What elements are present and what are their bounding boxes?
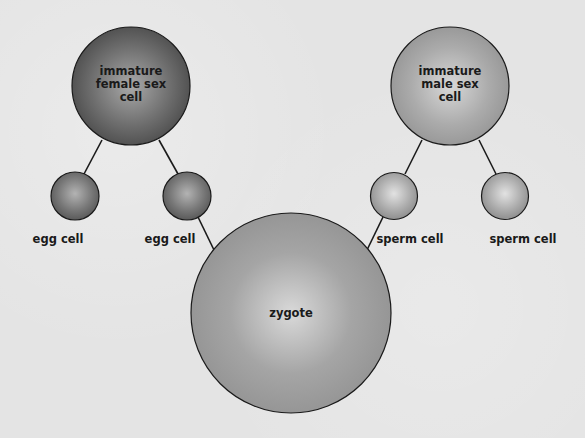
sperm-cell-left [371,173,418,220]
egg-cell-left-label: egg cell [33,233,84,246]
female-parent-label: immature female sex cell [91,65,171,104]
sperm-cell-right [482,173,529,220]
edge-male-to-sperm-left [405,140,422,174]
edge-egg-to-zygote [198,217,214,250]
edge-female-to-egg-left [84,140,102,174]
male-parent-label: immature male sex cell [414,65,486,104]
egg-cell-left [51,172,99,220]
sperm-cell-right-label: sperm cell [489,233,556,246]
egg-cell-right [163,172,211,220]
edge-female-to-egg-right [159,140,178,174]
zygote-label: zygote [269,307,313,320]
diagram-graphics [0,0,585,438]
edge-male-to-sperm-right [479,140,496,174]
egg-cell-right-label: egg cell [145,233,196,246]
sperm-cell-left-label: sperm cell [376,233,443,246]
diagram-canvas: immature female sex cell immature male s… [0,0,585,438]
